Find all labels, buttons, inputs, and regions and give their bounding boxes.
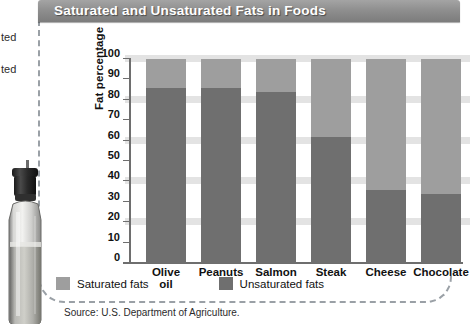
y-axis-tick	[123, 201, 129, 202]
y-axis-tick-label: 80	[108, 88, 120, 100]
legend-swatch-unsaturated	[219, 277, 233, 290]
bar	[366, 59, 406, 263]
plot-area: 0102030405060708090100 OliveoilPeanutsSa…	[129, 59, 462, 263]
y-axis-tick	[123, 242, 129, 243]
legend-label-unsaturated: Unsaturated fats	[240, 278, 324, 290]
bar-segment-unsaturated	[311, 137, 351, 263]
y-axis-tick-label: 20	[108, 210, 120, 222]
y-axis-tick-label: 90	[108, 67, 120, 79]
y-axis-tick	[123, 221, 129, 222]
bar-segment-saturated	[366, 59, 406, 190]
y-axis-tick	[123, 262, 129, 263]
x-axis-label: Chocolate	[404, 266, 474, 278]
bar	[311, 59, 351, 263]
source-note: Source: U.S. Department of Agriculture.	[64, 307, 240, 318]
legend-label-saturated: Saturated fats	[77, 278, 149, 290]
bar	[201, 59, 241, 263]
y-axis-tick-label: 50	[108, 149, 120, 161]
y-axis-tick-label: 40	[108, 169, 120, 181]
bar-segment-saturated	[311, 59, 351, 137]
y-axis-tick	[123, 160, 129, 161]
y-axis-tick	[123, 78, 129, 79]
clipped-edge-text: ted ted	[0, 24, 34, 75]
y-axis-tick-label: 100	[102, 47, 120, 59]
legend-item-saturated: Saturated fats	[56, 277, 149, 290]
y-axis-tick-label: 30	[108, 190, 120, 202]
clipped-text-fragment-2: ted	[0, 64, 34, 75]
y-axis-tick-label: 60	[108, 129, 120, 141]
bar	[146, 59, 186, 263]
y-axis-tick	[123, 180, 129, 181]
bar-segment-unsaturated	[256, 92, 296, 263]
y-axis-line	[129, 58, 131, 263]
y-axis-tick-label: 10	[108, 231, 120, 243]
y-axis-tick-label: 70	[108, 108, 120, 120]
y-axis-tick	[123, 58, 129, 59]
olive-oil-bottle-image	[4, 160, 54, 324]
chart-legend: Saturated fatsUnsaturated fats	[56, 277, 324, 290]
bar-segment-saturated	[146, 59, 186, 88]
bar-segment-unsaturated	[421, 194, 461, 263]
bar-segment-unsaturated	[146, 88, 186, 263]
bar-segment-saturated	[201, 59, 241, 88]
y-axis-tick-label: 0	[114, 251, 120, 263]
y-axis-tick	[123, 119, 129, 120]
bar	[421, 59, 461, 263]
y-axis-tick	[123, 99, 129, 100]
bar	[256, 59, 296, 263]
bar-segment-saturated	[256, 59, 296, 92]
bar-segment-saturated	[421, 59, 461, 194]
legend-item-unsaturated: Unsaturated fats	[219, 277, 324, 290]
clipped-text-fragment-1: ted	[0, 32, 34, 43]
y-axis-tick	[123, 140, 129, 141]
legend-swatch-saturated	[56, 277, 70, 290]
bar-segment-unsaturated	[366, 190, 406, 263]
bar-segment-unsaturated	[201, 88, 241, 263]
chart-panel: Fat percentage 0102030405060708090100 Ol…	[44, 24, 452, 274]
